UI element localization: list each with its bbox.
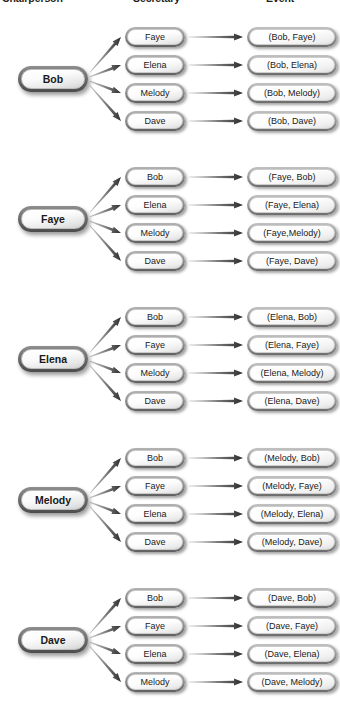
tree-diagram: Chairperson Secretary Event BobFaye(Bob,… [0,0,340,707]
arrow-secretary-to-event-2-1 [189,342,243,349]
arrow-secretary-to-event-3-0 [189,455,243,462]
event-node-3-2: (Melody, Elena) [247,504,337,524]
secretary-node-3-2-label: Elena [127,506,184,523]
secretary-node-1-3-label: Dave [127,253,184,270]
secretary-node-4-1-label: Faye [127,618,184,635]
secretary-node-0-2: Melody [125,83,185,103]
arrow-secretary-to-event-0-2 [189,90,243,97]
event-node-1-3-label: (Faye, Dave) [249,253,336,270]
event-node-2-0-label: (Elena, Bob) [249,309,336,326]
event-node-1-0-label: (Faye, Bob) [249,169,336,186]
event-node-1-0: (Faye, Bob) [247,167,337,187]
secretary-node-4-1: Faye [125,616,185,636]
arrow-secretary-to-event-2-2 [189,370,243,377]
arrow-secretary-to-event-1-2 [189,230,243,237]
chairperson-node-melody: Melody [18,487,88,513]
secretary-node-2-0: Bob [125,307,185,327]
event-node-4-3-label: (Dave, Melody) [249,674,336,691]
secretary-node-1-2-label: Melody [127,225,184,242]
secretary-node-3-2: Elena [125,504,185,524]
event-node-3-2-label: (Melody, Elena) [249,506,336,523]
secretary-node-0-2-label: Melody [127,85,184,102]
arrow-secretary-to-event-4-2 [189,651,243,658]
arrow-secretary-to-event-0-3 [189,118,243,125]
arrow-secretary-to-event-2-3 [189,398,243,405]
event-node-3-3-label: (Melody, Dave) [249,534,336,551]
secretary-node-3-0: Bob [125,448,185,468]
event-node-1-2: (Faye,Melody) [247,223,337,243]
event-node-4-1: (Dave, Faye) [247,616,337,636]
event-node-2-3-label: (Elena, Dave) [249,393,336,410]
event-node-2-2: (Elena, Melody) [247,363,337,383]
secretary-node-3-1: Faye [125,476,185,496]
event-node-3-0-label: (Melody, Bob) [249,450,336,467]
event-node-1-1-label: (Faye, Elena) [249,197,336,214]
arrow-secretary-to-event-3-2 [189,511,243,518]
chairperson-node-bob: Bob [18,66,88,92]
arrow-secretary-to-event-3-1 [189,483,243,490]
secretary-node-1-3: Dave [125,251,185,271]
secretary-node-0-3: Dave [125,111,185,131]
arrow-secretary-to-event-0-0 [189,34,243,41]
arrow-secretary-to-event-2-0 [189,314,243,321]
secretary-node-4-2-label: Elena [127,646,184,663]
event-node-0-3-label: (Bob, Dave) [249,113,336,130]
secretary-node-2-1: Faye [125,335,185,355]
event-node-4-2: (Dave, Elena) [247,644,337,664]
secretary-node-2-1-label: Faye [127,337,184,354]
secretary-node-3-0-label: Bob [127,450,184,467]
event-node-2-1-label: (Elena, Faye) [249,337,336,354]
event-node-4-2-label: (Dave, Elena) [249,646,336,663]
secretary-node-2-0-label: Bob [127,309,184,326]
secretary-node-4-0: Bob [125,588,185,608]
secretary-node-0-1-label: Elena [127,57,184,74]
event-node-0-0: (Bob, Faye) [247,27,337,47]
chairperson-node-faye: Faye [18,206,88,232]
secretary-node-2-2-label: Melody [127,365,184,382]
event-node-4-1-label: (Dave, Faye) [249,618,336,635]
secretary-node-3-3: Dave [125,532,185,552]
secretary-node-4-3: Melody [125,672,185,692]
secretary-node-4-0-label: Bob [127,590,184,607]
chairperson-node-faye-label: Faye [21,209,85,229]
chairperson-node-dave: Dave [18,627,88,653]
secretary-node-0-1: Elena [125,55,185,75]
secretary-node-0-3-label: Dave [127,113,184,130]
arrow-secretary-to-event-4-1 [189,623,243,630]
event-node-0-3: (Bob, Dave) [247,111,337,131]
secretary-node-2-2: Melody [125,363,185,383]
arrow-secretary-to-event-3-3 [189,539,243,546]
event-node-1-1: (Faye, Elena) [247,195,337,215]
event-node-2-2-label: (Elena, Melody) [249,365,336,382]
event-node-2-1: (Elena, Faye) [247,335,337,355]
secretary-node-1-1-label: Elena [127,197,184,214]
event-node-4-0: (Dave, Bob) [247,588,337,608]
arrow-secretary-to-event-1-3 [189,258,243,265]
event-node-3-3: (Melody, Dave) [247,532,337,552]
secretary-node-3-3-label: Dave [127,534,184,551]
arrow-secretary-to-event-4-0 [189,595,243,602]
secretary-node-0-0: Faye [125,27,185,47]
event-node-2-3: (Elena, Dave) [247,391,337,411]
event-node-3-1-label: (Melody, Faye) [249,478,336,495]
event-node-0-0-label: (Bob, Faye) [249,29,336,46]
secretary-node-1-0: Bob [125,167,185,187]
event-node-2-0: (Elena, Bob) [247,307,337,327]
event-node-4-3: (Dave, Melody) [247,672,337,692]
secretary-node-4-2: Elena [125,644,185,664]
chairperson-node-melody-label: Melody [21,490,85,510]
secretary-node-2-3-label: Dave [127,393,184,410]
chairperson-node-elena: Elena [18,346,88,372]
chairperson-node-bob-label: Bob [21,69,85,89]
event-node-0-2: (Bob, Melody) [247,83,337,103]
arrow-secretary-to-event-4-3 [189,679,243,686]
event-node-0-1-label: (Bob, Elena) [249,57,336,74]
secretary-node-1-1: Elena [125,195,185,215]
arrow-secretary-to-event-0-1 [189,62,243,69]
arrow-secretary-to-event-1-1 [189,202,243,209]
secretary-node-4-3-label: Melody [127,674,184,691]
arrow-secretary-to-event-1-0 [189,174,243,181]
secretary-node-1-2: Melody [125,223,185,243]
secretary-node-1-0-label: Bob [127,169,184,186]
secretary-node-2-3: Dave [125,391,185,411]
